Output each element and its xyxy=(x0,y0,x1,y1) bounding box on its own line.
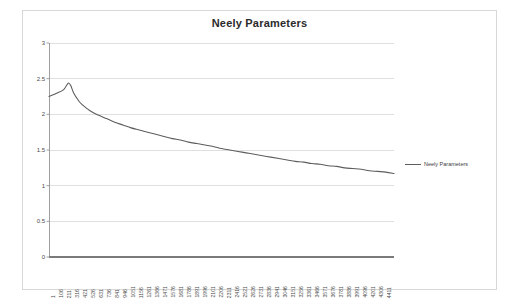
x-axis-tick-label: 1 xyxy=(51,295,56,298)
y-axis-tick-label: 3 xyxy=(23,40,45,46)
x-axis-tick-label: 4201 xyxy=(371,286,376,298)
x-axis-tick-label: 2416 xyxy=(235,286,240,298)
x-axis-tick-label: 1156 xyxy=(139,287,144,298)
y-axis-tick-label: 1.5 xyxy=(23,147,45,153)
x-axis-tick-label: 3571 xyxy=(323,286,328,298)
x-axis-tick-label: 631 xyxy=(99,289,104,298)
legend-label: Neely Parameters xyxy=(424,161,468,167)
x-axis-tick-label: 1786 xyxy=(187,286,192,298)
x-axis-tick-label: 1366 xyxy=(155,286,160,298)
chart-container: Neely Parameters 00.511.522.53 110621131… xyxy=(22,10,497,290)
y-axis-tick-label: 2 xyxy=(23,111,45,117)
x-axis-tick-label: 2626 xyxy=(251,286,256,298)
chart-legend: Neely Parameters xyxy=(405,161,468,167)
x-axis-tick-label: 1576 xyxy=(171,286,176,298)
x-axis-tick-label: 2101 xyxy=(211,286,216,298)
x-axis-tick-label: 2836 xyxy=(267,286,272,298)
x-axis-tick-label: 3046 xyxy=(283,286,288,298)
x-axis-tick-label: 106 xyxy=(59,289,64,298)
y-axis-tick-label: 0 xyxy=(23,254,45,260)
x-axis-tick-label: 4411 xyxy=(387,287,392,298)
x-axis-tick-label: 2941 xyxy=(275,286,280,298)
gridlines xyxy=(49,43,394,257)
y-axis-tick-label: 1 xyxy=(23,183,45,189)
axis-lines xyxy=(47,43,50,257)
x-axis-tick-label: 4096 xyxy=(363,286,368,298)
x-axis-tick-label: 3991 xyxy=(355,286,360,298)
x-axis-tick-labels: 1106211316421526631736841946105111561261… xyxy=(49,258,394,298)
x-axis-tick-label: 316 xyxy=(75,289,80,298)
x-axis-tick-label: 421 xyxy=(83,289,88,298)
x-axis-tick-label: 2311 xyxy=(227,287,232,298)
x-axis-tick-label: 736 xyxy=(107,289,112,298)
x-axis-tick-label: 2206 xyxy=(219,286,224,298)
x-axis-tick-label: 211 xyxy=(67,290,72,298)
x-axis-tick-label: 3256 xyxy=(299,286,304,298)
x-axis-tick-label: 1996 xyxy=(203,286,208,298)
x-axis-tick-label: 3676 xyxy=(331,286,336,298)
x-axis-tick-label: 1471 xyxy=(163,286,168,298)
x-axis-tick-label: 4306 xyxy=(379,286,384,298)
x-axis-tick-label: 3781 xyxy=(339,286,344,298)
x-axis-tick-label: 946 xyxy=(123,289,128,298)
x-axis-tick-label: 1891 xyxy=(195,286,200,298)
x-axis-tick-label: 526 xyxy=(91,289,96,298)
x-axis-tick-label: 1681 xyxy=(179,286,184,298)
x-axis-tick-label: 3151 xyxy=(291,286,296,298)
x-axis-tick-label: 2731 xyxy=(259,286,264,298)
x-axis-tick-label: 2521 xyxy=(243,286,248,298)
y-axis-tick-label: 0.5 xyxy=(23,218,45,224)
line-chart-svg xyxy=(23,11,498,291)
x-axis-tick-label: 841 xyxy=(115,289,120,298)
plot-area: 00.511.522.53 11062113164215266317368419… xyxy=(23,11,498,291)
x-axis-tick-label: 1051 xyxy=(131,286,136,298)
y-axis-tick-label: 2.5 xyxy=(23,76,45,82)
x-axis-tick-label: 3466 xyxy=(315,286,320,298)
x-axis-tick-label: 3886 xyxy=(347,286,352,298)
data-series xyxy=(49,83,394,174)
x-axis-tick-label: 1261 xyxy=(147,286,152,298)
legend-line-swatch xyxy=(405,164,421,165)
x-axis-tick-label: 3361 xyxy=(307,286,312,298)
